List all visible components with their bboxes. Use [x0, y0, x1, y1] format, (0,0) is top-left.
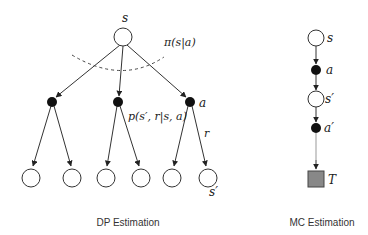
reward-label: r: [204, 127, 210, 140]
mc-action-node: [311, 65, 321, 75]
root-state-label: s: [122, 11, 128, 25]
leaf-state-node: [63, 169, 81, 187]
mc-next-action-label: a′: [324, 121, 334, 135]
policy-edges: [56, 45, 186, 97]
mc-state-node: [308, 30, 324, 46]
leaf-state-node: [22, 169, 40, 187]
mc-action-label: a: [326, 63, 333, 77]
leaf-state-node: [97, 169, 115, 187]
mc-state-label: s: [327, 31, 333, 45]
mc-next-action-node: [311, 123, 321, 133]
action-node: [113, 97, 123, 107]
mc-next-state-node: [308, 91, 324, 107]
next-state-label: s′: [209, 185, 218, 199]
policy-label: π(s|a): [163, 36, 196, 50]
policy-arc: [72, 55, 164, 71]
root-state-node: [114, 28, 132, 46]
leaf-state-node: [132, 169, 150, 187]
dp-caption: DP Estimation: [96, 217, 159, 228]
terminal-node: [308, 171, 324, 187]
action-label: a: [199, 96, 206, 110]
action-node: [185, 97, 195, 107]
mc-next-state-label: s′: [325, 92, 334, 106]
dp-diagram: s π(s|a) a p(s′, r|s, a) r s′ DP Estim: [22, 11, 218, 228]
action-node: [47, 97, 57, 107]
transition-label: p(s′, r|s, a): [128, 110, 187, 124]
backup-diagrams-figure: s π(s|a) a p(s′, r|s, a) r s′ DP Estim: [0, 0, 368, 235]
mc-caption: MC Estimation: [289, 217, 354, 228]
mc-diagram: s a s′ a′ T MC Estimation: [289, 30, 354, 228]
leaf-state-node: [163, 169, 181, 187]
terminal-label: T: [328, 173, 337, 187]
